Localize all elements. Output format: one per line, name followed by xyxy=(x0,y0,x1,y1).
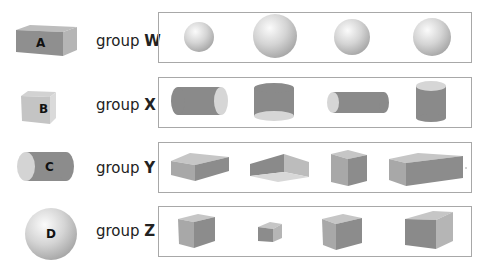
group-prefix: group xyxy=(96,96,140,114)
group-name: Z xyxy=(144,222,155,240)
group-label-w: group W xyxy=(96,32,161,50)
group-y-box xyxy=(158,142,472,193)
ref-letter-d: D xyxy=(46,227,56,241)
group-prefix: group xyxy=(96,222,140,240)
group-z-box xyxy=(158,206,472,257)
group-name: X xyxy=(144,96,156,114)
group-label-z: group Z xyxy=(96,222,155,240)
ref-letter-a: A xyxy=(36,36,45,50)
group-name: Y xyxy=(144,159,155,177)
ref-letter-c: C xyxy=(45,160,54,174)
group-prefix: group xyxy=(96,32,140,50)
group-x-box xyxy=(158,77,472,128)
group-prefix: group xyxy=(96,159,140,177)
ref-shape-a-prism xyxy=(16,25,77,56)
group-label-x: group X xyxy=(96,96,156,114)
ref-letter-b: B xyxy=(39,102,48,116)
group-w-box xyxy=(158,12,472,63)
group-label-y: group Y xyxy=(96,159,155,177)
